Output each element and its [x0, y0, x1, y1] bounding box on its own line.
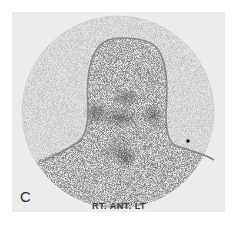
panel-letter: C [20, 188, 31, 205]
marker-dot [186, 139, 190, 143]
scintigraphy-scan [0, 0, 235, 228]
view-orientation-label: RT. ANT. LT [92, 201, 146, 211]
